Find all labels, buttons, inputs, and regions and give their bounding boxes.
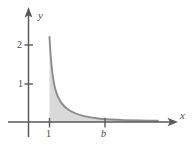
plot-canvas	[0, 0, 194, 154]
improper-integral-area-figure: y x 2 1 1 b	[0, 0, 194, 154]
decay-curve	[50, 37, 159, 121]
y-axis-label: y	[38, 10, 43, 21]
y-tick-label-2: 2	[17, 40, 22, 50]
x-tick-label-1: 1	[46, 129, 51, 139]
x-axis-label: x	[180, 110, 185, 121]
x-tick-label-b: b	[101, 129, 106, 139]
y-tick-label-1: 1	[18, 79, 23, 89]
shaded-area-under-curve	[50, 37, 159, 122]
